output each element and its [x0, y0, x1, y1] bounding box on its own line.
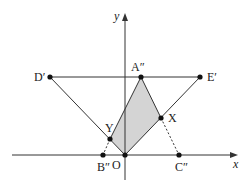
point-d: [47, 74, 52, 79]
geometry-diagram: x y D′ A″ E′ X Y B″ O C″: [0, 0, 250, 187]
dashed-y-b: [103, 139, 110, 155]
label-y: Y: [105, 121, 114, 135]
point-b: [100, 152, 105, 157]
point-a: [138, 74, 143, 79]
label-c: C″: [175, 160, 188, 174]
y-axis-label: y: [113, 9, 120, 23]
point-x: [158, 115, 163, 120]
diagram-canvas: x y D′ A″ E′ X Y B″ O C″: [0, 0, 250, 187]
point-y: [107, 136, 112, 141]
segment-d-o: [50, 77, 125, 155]
label-e: E′: [207, 70, 217, 84]
label-a: A″: [131, 60, 145, 74]
label-d: D′: [34, 70, 46, 84]
y-axis-arrow-icon: [122, 13, 128, 21]
point-c: [176, 152, 181, 157]
label-o: O: [112, 158, 121, 172]
point-o: [122, 152, 127, 157]
x-axis-label: x: [232, 157, 239, 171]
label-b: B″: [97, 160, 110, 174]
label-x: X: [168, 111, 177, 125]
point-e: [197, 74, 202, 79]
